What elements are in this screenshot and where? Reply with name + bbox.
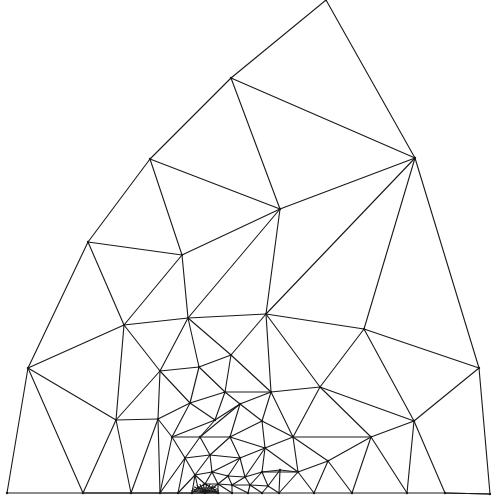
mesh-node: [211, 487, 213, 489]
mesh-edge: [7, 368, 28, 493]
mesh-edge: [262, 421, 265, 448]
mesh-edge: [266, 314, 364, 329]
mesh-node: [261, 471, 263, 473]
mesh-edge: [279, 470, 280, 493]
mesh-edge: [158, 371, 160, 419]
mesh-edge: [240, 404, 262, 421]
mesh-edge: [320, 329, 364, 387]
mesh-edge: [371, 437, 407, 493]
mesh-edge: [266, 314, 320, 387]
mesh-edge: [215, 392, 225, 420]
mesh-edge: [262, 472, 268, 486]
mesh-node: [87, 241, 89, 243]
mesh-edge: [250, 485, 262, 493]
mesh-edge: [240, 392, 271, 404]
mesh-edge: [271, 392, 293, 437]
mesh-node: [204, 483, 206, 485]
mesh-node: [279, 208, 281, 210]
mesh-edge: [415, 158, 479, 368]
mesh-edge: [326, 0, 415, 158]
mesh-edge: [172, 420, 215, 437]
mesh-edge: [364, 158, 415, 329]
mesh-edge: [231, 0, 326, 78]
mesh-edge: [230, 421, 262, 437]
mesh-edge: [185, 437, 200, 458]
mesh-edge: [266, 209, 280, 314]
mesh-edge: [445, 493, 490, 494]
mesh-edge: [218, 476, 228, 484]
mesh-edge: [225, 355, 231, 392]
mesh-node: [115, 419, 117, 421]
mesh-edge: [116, 419, 158, 420]
mesh-node: [198, 366, 200, 368]
mesh-edge: [371, 421, 414, 437]
mesh-edge: [232, 485, 248, 493]
mesh-edge: [131, 419, 158, 493]
mesh-edge: [298, 472, 314, 493]
mesh-edge: [188, 318, 231, 355]
mesh-node: [181, 254, 183, 256]
mesh-edge: [188, 209, 280, 318]
mesh-node: [261, 420, 263, 422]
mesh-edge: [320, 387, 414, 421]
mesh-edge: [268, 486, 279, 493]
mesh-edge: [158, 419, 172, 437]
mesh-node: [413, 420, 415, 422]
mesh-edge: [195, 455, 210, 475]
mesh-node: [123, 324, 125, 326]
mesh-node: [229, 436, 231, 438]
mesh-edge: [328, 461, 352, 493]
mesh-edge: [88, 242, 182, 255]
mesh-node: [351, 492, 353, 494]
mesh-edge: [266, 158, 415, 314]
mesh-node: [231, 484, 233, 486]
mesh-edge: [160, 371, 190, 403]
mesh-edge: [262, 421, 293, 437]
mesh-edge: [124, 255, 182, 325]
mesh-edge: [228, 476, 245, 477]
mesh-edge: [190, 403, 215, 420]
mesh-node: [478, 367, 480, 369]
mesh-edge: [124, 318, 188, 325]
mesh-node: [209, 454, 211, 456]
mesh-node: [194, 474, 196, 476]
mesh-node: [191, 492, 193, 494]
mesh-node: [292, 436, 294, 438]
mesh-edge: [231, 355, 271, 392]
mesh-node: [319, 386, 321, 388]
mesh-edge: [88, 159, 150, 242]
mesh-edge: [407, 421, 414, 493]
mesh-edge: [116, 420, 131, 493]
mesh-node: [313, 492, 315, 494]
mesh-edge: [150, 159, 280, 209]
mesh-edge: [230, 437, 265, 448]
mesh-edge: [158, 419, 160, 493]
mesh-edge: [231, 314, 266, 355]
mesh-node: [444, 492, 446, 494]
mesh-edge: [199, 367, 225, 392]
mesh-edge: [210, 455, 240, 458]
mesh-edge: [28, 325, 124, 368]
mesh-edge: [190, 367, 199, 403]
mesh-node: [211, 471, 213, 473]
mesh-edge: [212, 472, 228, 476]
mesh-edges: [7, 0, 490, 494]
mesh-edge: [266, 314, 271, 392]
mesh-edge: [280, 158, 415, 209]
mesh-node: [227, 475, 229, 477]
mesh-edge: [414, 421, 445, 493]
mesh-node: [230, 77, 232, 79]
mesh-edge: [188, 314, 266, 318]
mesh-edge: [116, 371, 160, 420]
mesh-edge: [160, 318, 188, 371]
mesh-edge: [182, 255, 188, 318]
mesh-edge: [262, 392, 271, 421]
mesh-edge: [250, 485, 268, 486]
mesh-node: [278, 492, 280, 494]
mesh-edge: [225, 392, 240, 404]
mesh-node: [187, 317, 189, 319]
mesh-node: [159, 370, 161, 372]
mesh-edge: [83, 420, 116, 493]
mesh-node: [130, 492, 132, 494]
mesh-edge: [88, 242, 124, 325]
